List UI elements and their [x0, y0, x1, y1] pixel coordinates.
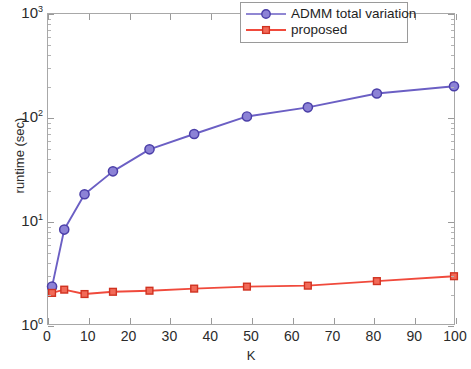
y-axis-minor-tick: [451, 232, 454, 233]
y-axis-minor-tick: [48, 37, 51, 38]
data-point-marker: [80, 190, 89, 199]
y-axis-minor-tick: [48, 128, 51, 129]
y-axis-minor-tick: [451, 128, 454, 129]
y-axis-minor-tick: [48, 24, 51, 25]
y-axis-minor-tick: [451, 55, 454, 56]
series-proposed: [49, 273, 458, 298]
legend-swatch-line-square-icon: [245, 23, 287, 37]
y-axis-tick: [48, 326, 54, 327]
legend-swatch-line-circle-icon: [245, 7, 287, 21]
x-axis-tick-label: 10: [80, 329, 96, 343]
data-point-marker: [81, 291, 88, 298]
x-axis-tick-label: 90: [406, 329, 422, 343]
data-point-marker: [242, 112, 251, 121]
y-axis-minor-tick: [48, 227, 51, 228]
x-axis-tick: [415, 318, 416, 324]
data-point-marker: [60, 225, 69, 234]
x-axis-tick: [293, 318, 294, 324]
y-axis-minor-tick: [451, 87, 454, 88]
y-axis-minor-tick: [48, 245, 51, 246]
x-axis-tick: [334, 318, 335, 324]
y-axis-minor-tick: [48, 232, 51, 233]
y-axis-minor-tick: [451, 276, 454, 277]
x-axis-tick: [170, 14, 171, 20]
y-axis-minor-tick: [48, 141, 51, 142]
y-axis-minor-tick: [48, 123, 51, 124]
x-axis-tick: [374, 318, 375, 324]
x-axis-tick: [130, 14, 131, 20]
chart-figure: 100101102103 runtime (sec) 0102030405060…: [0, 0, 471, 369]
y-axis-minor-tick: [451, 149, 454, 150]
legend-item-admm-total-variation: ADMM total variation: [245, 6, 403, 22]
series-line: [52, 86, 454, 286]
data-point-marker: [304, 282, 311, 289]
y-axis-tick: [448, 222, 454, 223]
y-axis-tick: [448, 118, 454, 119]
data-point-marker: [110, 288, 117, 295]
series-admm-total-variation: [47, 82, 458, 292]
y-axis-minor-tick: [48, 149, 51, 150]
x-axis-tick: [456, 14, 457, 20]
y-axis-minor-tick: [451, 245, 454, 246]
data-point-marker: [190, 129, 199, 138]
x-axis-tick: [456, 318, 457, 324]
y-axis-minor-tick: [48, 295, 51, 296]
y-axis-minor-tick: [48, 263, 51, 264]
chart-legend: ADMM total variation proposed: [240, 2, 408, 43]
plot-series-svg: [48, 14, 454, 324]
x-axis-tick-label: 70: [325, 329, 341, 343]
data-point-marker: [146, 287, 153, 294]
y-axis-tick-label: 103: [21, 5, 43, 20]
x-axis-tick-label: 40: [202, 329, 218, 343]
y-axis-minor-tick: [48, 238, 51, 239]
y-axis-minor-tick: [451, 159, 454, 160]
data-point-marker: [303, 103, 312, 112]
y-axis-title: runtime (sec): [12, 91, 27, 221]
y-axis-minor-tick: [451, 19, 454, 20]
y-axis-minor-tick: [451, 191, 454, 192]
y-axis-minor-tick: [451, 45, 454, 46]
y-axis-minor-tick: [451, 141, 454, 142]
x-axis-tick: [170, 318, 171, 324]
y-axis-minor-tick: [48, 172, 51, 173]
y-axis-minor-tick: [48, 45, 51, 46]
x-axis-tick: [48, 14, 49, 20]
y-axis-minor-tick: [451, 123, 454, 124]
y-axis-minor-tick: [451, 30, 454, 31]
x-axis-tick-label: 100: [443, 329, 466, 343]
y-axis-minor-tick: [451, 253, 454, 254]
y-axis-tick-label: 100: [21, 317, 43, 332]
legend-item-proposed: proposed: [245, 22, 403, 38]
x-axis-tick-label: 80: [366, 329, 382, 343]
y-axis-minor-tick: [48, 134, 51, 135]
x-axis-title: K: [247, 348, 256, 363]
legend-label: proposed: [291, 23, 347, 37]
x-axis-tick-label: 30: [162, 329, 178, 343]
y-axis-minor-tick: [451, 68, 454, 69]
y-axis-minor-tick: [451, 134, 454, 135]
y-axis-minor-tick: [48, 191, 51, 192]
x-axis-tick: [130, 318, 131, 324]
x-axis-tick-label: 50: [243, 329, 259, 343]
data-point-marker: [244, 283, 251, 290]
y-axis-minor-tick: [451, 238, 454, 239]
x-axis-tick: [89, 318, 90, 324]
x-axis-tick: [252, 318, 253, 324]
x-axis-tick-label: 60: [284, 329, 300, 343]
y-axis-tick: [48, 222, 54, 223]
y-axis-minor-tick: [48, 159, 51, 160]
y-axis-minor-tick: [451, 227, 454, 228]
y-axis-minor-tick: [48, 276, 51, 277]
y-axis-minor-tick: [451, 263, 454, 264]
x-axis-tick: [211, 318, 212, 324]
y-axis-minor-tick: [451, 172, 454, 173]
y-axis-minor-tick: [451, 295, 454, 296]
y-axis-minor-tick: [451, 24, 454, 25]
data-point-marker: [372, 89, 381, 98]
y-axis-minor-tick: [48, 55, 51, 56]
data-point-marker: [373, 278, 380, 285]
x-axis-tick-label: 0: [43, 329, 51, 343]
data-point-marker: [191, 285, 198, 292]
data-point-marker: [108, 167, 117, 176]
y-axis-minor-tick: [48, 68, 51, 69]
